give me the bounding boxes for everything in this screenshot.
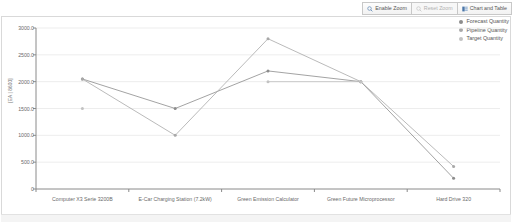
gridlines: [36, 28, 500, 162]
y-tick-label: 1500.0: [0, 106, 34, 112]
axis-ticks: [33, 28, 500, 192]
chart-svg: [0, 0, 515, 223]
x-tick-label: Green Future Microprocessor: [314, 196, 407, 202]
y-tick-label: 1000.0: [0, 132, 34, 138]
y-tick-label: 2000.0: [0, 79, 34, 85]
horizontal-scrollbar[interactable]: [1, 214, 511, 222]
y-tick-label: 0: [0, 186, 34, 192]
chart-widget: Enable Zoom Reset Zoom Chart and Table F…: [0, 0, 515, 223]
x-tick-label: Green Emission Calculator: [222, 196, 315, 202]
y-tick-label: 2500.0: [0, 52, 34, 58]
chart-plot-area: [0, 0, 515, 223]
y-tick-label: 500.0: [0, 159, 34, 165]
x-tick-label: Computer X3 Serie 3200B: [36, 196, 129, 202]
x-tick-label: Hard Drive 320: [407, 196, 500, 202]
x-tick-label: E-Car Charging Station (7.2kW): [129, 196, 222, 202]
y-tick-label: 3000.0: [0, 25, 34, 31]
